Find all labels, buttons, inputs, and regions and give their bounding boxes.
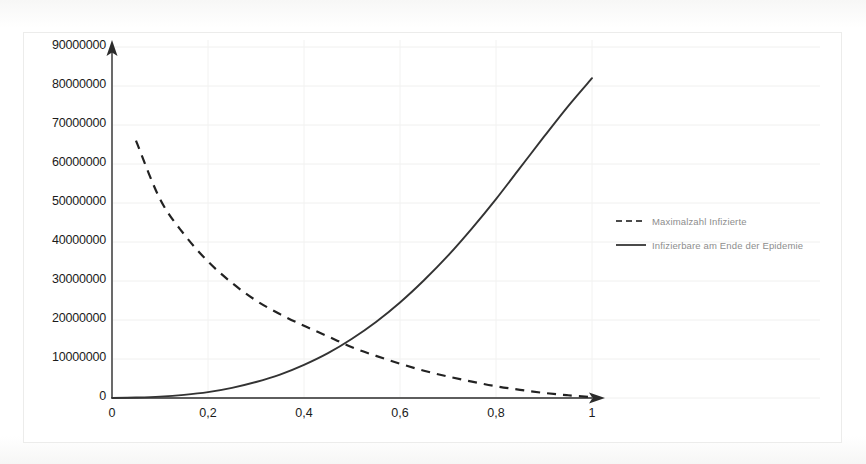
x-axis-tick-label: 0,4 xyxy=(274,406,334,420)
y-axis-tick-label: 30000000 xyxy=(20,272,106,286)
y-axis-tick-label: 40000000 xyxy=(20,233,106,247)
y-axis-tick-label: 70000000 xyxy=(20,116,106,130)
x-axis-tick-label: 0,8 xyxy=(466,406,526,420)
y-axis-tick-label: 90000000 xyxy=(20,38,106,52)
legend-swatch-solid-icon xyxy=(616,240,646,250)
legend-item-infizierbare: Infizierbare am Ende der Epidemie xyxy=(616,234,856,256)
y-axis-tick-label: 60000000 xyxy=(20,155,106,169)
y-axis-tick-label: 20000000 xyxy=(20,311,106,325)
legend-label-maximalzahl: Maximalzahl Infizierte xyxy=(652,216,747,227)
gridlines-vertical xyxy=(208,40,592,398)
legend-swatch-dashed-icon xyxy=(616,216,646,226)
y-axis-tick-label: 80000000 xyxy=(20,77,106,91)
x-axis-tick-label: 0,2 xyxy=(178,406,238,420)
x-axis-tick-label: 0 xyxy=(82,406,142,420)
series-line-infizierbare xyxy=(112,78,592,398)
y-axis-tick-labels: 9000000080000000700000006000000050000000… xyxy=(18,0,106,464)
y-axis-tick-label: 50000000 xyxy=(20,194,106,208)
x-axis-tick-label: 1 xyxy=(562,406,622,420)
legend-item-maximalzahl: Maximalzahl Infizierte xyxy=(616,210,856,232)
axis-lines xyxy=(107,40,606,404)
x-axis-tick-label: 0,6 xyxy=(370,406,430,420)
legend-label-infizierbare: Infizierbare am Ende der Epidemie xyxy=(652,240,803,251)
y-axis-tick-label: 10000000 xyxy=(20,350,106,364)
x-axis-tick-labels: 00,20,40,60,81 xyxy=(0,406,866,428)
y-axis-tick-label: 0 xyxy=(20,389,106,403)
chart-legend: Maximalzahl Infizierte Infizierbare am E… xyxy=(616,210,856,258)
